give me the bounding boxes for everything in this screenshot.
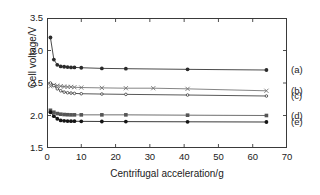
data-point-marker	[265, 95, 268, 98]
data-point-marker	[79, 113, 83, 117]
series-label-e: (e)	[291, 117, 303, 127]
data-point-marker	[100, 113, 104, 117]
data-point-marker	[69, 66, 73, 70]
x-tick-label: 10	[69, 152, 93, 162]
data-point-marker	[125, 93, 128, 96]
chart-figure: 1.52.02.53.03.5 010203040506070 Cell vol…	[0, 0, 320, 195]
x-tick-label: 0	[35, 152, 59, 162]
data-point-marker	[52, 114, 56, 118]
data-point-marker	[69, 119, 73, 123]
data-point-marker	[62, 65, 66, 69]
data-point-marker	[62, 119, 66, 123]
data-point-marker	[186, 67, 190, 71]
data-point-marker	[100, 66, 104, 70]
data-point-marker	[69, 113, 73, 117]
data-point-marker	[101, 93, 104, 96]
data-point-marker	[186, 120, 190, 124]
data-point-marker	[73, 66, 77, 70]
data-point-marker	[124, 113, 128, 117]
data-point-marker	[59, 65, 63, 69]
series-label-c: (c)	[291, 91, 302, 101]
y-axis-title: Cell voltage/V	[27, 0, 38, 118]
data-point-marker	[59, 90, 62, 93]
x-axis-title: Centrifugal acceleration/g	[47, 168, 287, 179]
x-tick-label: 70	[275, 152, 299, 162]
data-point-marker	[124, 67, 128, 71]
data-point-marker	[52, 110, 56, 114]
series-b	[48, 83, 268, 93]
data-point-marker	[55, 63, 59, 67]
data-point-marker	[59, 118, 63, 122]
data-point-marker	[49, 82, 52, 85]
data-point-marker	[186, 94, 189, 97]
plot-area	[47, 18, 287, 148]
data-point-marker	[73, 92, 76, 95]
series-e	[49, 110, 269, 124]
series-d	[49, 109, 269, 118]
data-point-marker	[66, 65, 70, 69]
data-point-marker	[55, 112, 59, 116]
series-label-d: (d)	[291, 111, 303, 121]
data-point-marker	[265, 68, 269, 72]
data-point-marker	[66, 113, 70, 117]
data-point-marker	[73, 113, 77, 117]
data-point-marker	[80, 92, 83, 95]
data-point-marker	[49, 110, 53, 114]
data-point-marker	[55, 117, 59, 121]
data-point-marker	[186, 113, 190, 117]
data-point-marker	[79, 66, 83, 70]
series-c	[49, 82, 268, 98]
data-point-marker	[70, 92, 73, 95]
data-point-marker	[73, 119, 77, 123]
data-point-marker	[265, 120, 269, 124]
data-point-marker	[66, 119, 70, 123]
x-tick-label: 60	[241, 152, 265, 162]
data-point-marker	[52, 58, 56, 62]
series-canvas	[47, 18, 287, 148]
x-tick-label: 50	[206, 152, 230, 162]
x-tick-label: 20	[104, 152, 128, 162]
x-tick-label: 40	[172, 152, 196, 162]
x-tick-label: 30	[138, 152, 162, 162]
x-axis-tick-labels: 010203040506070	[47, 152, 287, 164]
data-point-marker	[63, 91, 66, 94]
data-point-marker	[49, 36, 53, 40]
data-point-marker	[124, 120, 128, 124]
data-point-marker	[59, 112, 63, 116]
series-label-b: (b)	[291, 86, 303, 96]
data-point-marker	[62, 113, 66, 117]
data-point-marker	[66, 91, 69, 94]
data-point-marker	[53, 84, 56, 87]
data-point-marker	[100, 120, 104, 124]
series-label-a: (a)	[291, 65, 303, 75]
series-a	[49, 36, 269, 72]
data-point-marker	[79, 119, 83, 123]
data-point-marker	[265, 114, 269, 118]
data-point-marker	[56, 88, 59, 91]
series-line	[50, 38, 266, 71]
